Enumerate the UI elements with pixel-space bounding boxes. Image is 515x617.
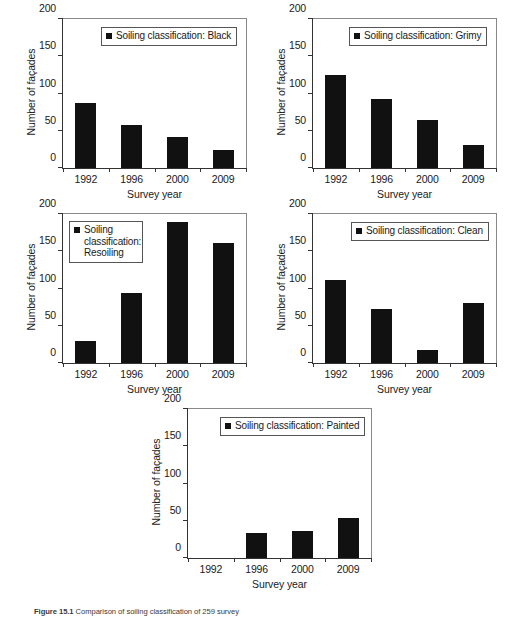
x-tick-label: 2009 <box>337 563 360 575</box>
y-tick-label: 100 <box>289 272 306 283</box>
y-tick-label: 0 <box>300 347 306 358</box>
plot-area: 0 50 100 150 200 1992 1996 2000 2009 <box>312 213 497 364</box>
bar-cell <box>155 214 201 363</box>
legend-grimy: Soiling classification: Grimy <box>349 27 487 46</box>
legend-label: Soiling classification: Resoiling <box>84 224 141 259</box>
figure-caption: Figure 15.1 Comparison of soiling classi… <box>34 607 484 617</box>
bar <box>121 125 142 168</box>
legend-square-icon <box>354 33 360 39</box>
bar <box>75 341 96 363</box>
x-tick-label: 1996 <box>245 563 268 575</box>
x-axis-label: Survey year <box>312 383 497 395</box>
plot-area: 0 50 100 150 200 1992 1996 2000 2009 <box>187 408 372 559</box>
bar <box>325 75 346 168</box>
figure-caption-text: Comparison of soiling classification of … <box>76 607 239 616</box>
figure-panel-grid: Number of façades 0 50 100 150 200 1992 … <box>0 0 515 617</box>
y-tick-label: 200 <box>289 198 306 209</box>
legend-clean: Soiling classification: Clean <box>351 222 489 241</box>
chart-panel-painted: Number of façades 0 50 100 150 200 1992 … <box>139 402 379 588</box>
x-tick-label: 2000 <box>416 173 439 185</box>
bar <box>121 293 142 363</box>
y-tick-label: 50 <box>295 309 306 320</box>
x-tick-label: 2000 <box>291 563 314 575</box>
bar <box>371 309 392 363</box>
y-tick-label: 200 <box>39 3 56 14</box>
y-axis-label: Number of façades <box>274 27 288 157</box>
bar <box>75 103 96 168</box>
y-tick-label: 0 <box>175 542 181 553</box>
y-tick-label: 0 <box>300 152 306 163</box>
y-tick-label: 150 <box>164 430 181 441</box>
y-tick-label: 150 <box>39 40 56 51</box>
x-tick-label: 2000 <box>416 368 439 380</box>
chart-panel-clean: Number of façades 0 50 100 150 200 1992 … <box>264 207 504 393</box>
x-tick-label: 1996 <box>370 368 393 380</box>
y-tick-label: 0 <box>50 152 56 163</box>
legend-resoiling: Soiling classification: Resoiling <box>69 221 143 263</box>
x-axis-label: Survey year <box>62 188 247 200</box>
bar <box>463 145 484 168</box>
bar <box>371 99 392 168</box>
bar <box>213 243 234 363</box>
x-tick-label: 1992 <box>200 563 223 575</box>
chart-panel-black: Number of façades 0 50 100 150 200 1992 … <box>14 12 254 198</box>
x-axis-label: Survey year <box>312 188 497 200</box>
legend-black: Soiling classification: Black <box>101 27 237 46</box>
x-tick-label: 2009 <box>212 173 235 185</box>
bar <box>246 533 267 558</box>
legend-square-icon <box>225 423 231 429</box>
x-tick-label: 1996 <box>120 368 143 380</box>
y-axis-label: Number of façades <box>149 417 163 547</box>
x-axis-label: Survey year <box>62 383 247 395</box>
y-tick-label: 200 <box>39 198 56 209</box>
y-tick-label: 100 <box>39 272 56 283</box>
bar <box>167 222 188 363</box>
bar <box>167 137 188 168</box>
x-tick-label: 1992 <box>325 173 348 185</box>
x-tick-label: 2000 <box>166 173 189 185</box>
figure-caption-label: Figure 15.1 <box>34 607 74 616</box>
plot-area: 0 50 100 150 200 1992 1996 2000 2009 <box>62 213 247 364</box>
plot-area: 0 50 100 150 200 1992 1996 2000 2009 <box>62 18 247 169</box>
y-tick-label: 200 <box>164 393 181 404</box>
bar <box>338 518 359 558</box>
y-tick-label: 100 <box>289 77 306 88</box>
y-tick-label: 50 <box>295 114 306 125</box>
legend-label: Soiling classification: Clean <box>366 225 483 237</box>
y-axis-label: Number of façades <box>274 222 288 352</box>
legend-label: Soiling classification: Painted <box>235 420 359 432</box>
y-tick-label: 150 <box>289 235 306 246</box>
y-axis-label: Number of façades <box>24 27 38 157</box>
legend-square-icon <box>74 227 80 233</box>
legend-painted: Soiling classification: Painted <box>220 417 365 436</box>
y-tick-label: 100 <box>164 467 181 478</box>
x-axis-label: Survey year <box>187 578 372 590</box>
bar <box>325 280 346 363</box>
y-tick-label: 0 <box>50 347 56 358</box>
plot-area: 0 50 100 150 200 1992 1996 2000 2009 <box>312 18 497 169</box>
x-tick-label: 1992 <box>75 173 98 185</box>
bar <box>292 531 313 558</box>
x-tick-label: 1996 <box>370 173 393 185</box>
x-tick-label: 1996 <box>120 173 143 185</box>
legend-square-icon <box>356 228 362 234</box>
y-tick-label: 150 <box>39 235 56 246</box>
legend-label: Soiling classification: Black <box>116 30 231 42</box>
x-tick-label: 1992 <box>325 368 348 380</box>
bar <box>417 350 438 363</box>
y-tick-label: 50 <box>170 504 181 515</box>
legend-square-icon <box>106 33 112 39</box>
bar-cell <box>200 214 246 363</box>
legend-label: Soiling classification: Grimy <box>364 30 481 42</box>
y-tick-label: 150 <box>289 40 306 51</box>
y-axis-label: Number of façades <box>24 222 38 352</box>
bar <box>213 150 234 168</box>
chart-panel-grimy: Number of façades 0 50 100 150 200 1992 … <box>264 12 504 198</box>
y-tick-label: 50 <box>45 309 56 320</box>
x-tick-label: 2009 <box>212 368 235 380</box>
x-tick-label: 2009 <box>462 368 485 380</box>
x-tick-label: 2009 <box>462 173 485 185</box>
x-tick-label: 2000 <box>166 368 189 380</box>
y-tick-label: 100 <box>39 77 56 88</box>
bar <box>463 303 484 363</box>
